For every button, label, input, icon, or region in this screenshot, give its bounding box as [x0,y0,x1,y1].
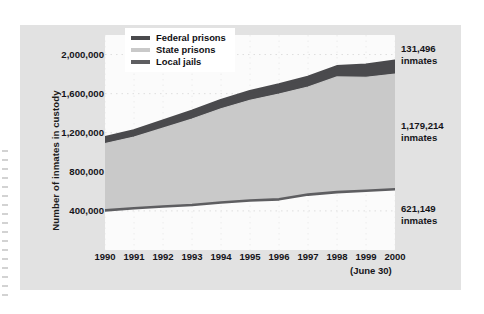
x-tick-label: 1993 [181,251,202,262]
x-tick-label: 1998 [326,251,347,262]
legend-swatch-icon [131,48,150,52]
callout-value: 621,149 [401,203,437,215]
series-areas [105,61,395,210]
chart-legend: Federal prisonsState prisonsLocal jails [125,28,235,72]
x-tick-label: 1990 [94,251,115,262]
x-tick-label: 1991 [123,251,144,262]
x-axis-tick-labels: 1990199119921993199419951996199719981999… [105,251,395,265]
x-tick-label: 1994 [210,251,231,262]
legend-label: Local jails [156,56,201,68]
legend-label: State prisons [156,44,215,56]
callout-federal-prisons: 131,496 inmates [401,43,437,66]
y-tick-label: 1,200,000 [38,127,104,138]
x-axis-note: (June 30) [350,265,392,276]
x-tick-label: 2000 [384,251,405,262]
legend-local-jails: Local jails [131,56,226,68]
legend-label: Federal prisons [156,32,226,44]
legend-swatch-icon [131,36,150,40]
legend-swatch-icon [131,60,150,64]
y-axis-tick-labels: 400,000800,0001,200,0001,600,0002,000,00… [32,25,104,290]
x-tick-label: 1996 [268,251,289,262]
callout-unit: inmates [401,55,437,67]
x-tick-label: 1992 [152,251,173,262]
callout-state-prisons: 1,179,214 inmates [401,120,444,143]
y-tick-label: 400,000 [38,205,104,216]
callout-value: 131,496 [401,43,437,55]
x-tick-label: 1999 [355,251,376,262]
y-tick-label: 800,000 [38,166,104,177]
callout-unit: inmates [401,132,444,144]
x-tick-label: 1997 [297,251,318,262]
y-tick-label: 1,600,000 [38,88,104,99]
callout-value: 1,179,214 [401,120,444,132]
legend-federal-prisons: Federal prisons [131,32,226,44]
callout-unit: inmates [401,215,437,227]
legend-state-prisons: State prisons [131,44,226,56]
scan-edge-artifact [2,150,8,300]
x-tick-label: 1995 [239,251,260,262]
callout-local-jails: 621,149 inmates [401,203,437,226]
chart-figure-panel: Number of inmates in custody 400,000800,… [20,25,461,290]
y-tick-label: 2,000,000 [38,49,104,60]
